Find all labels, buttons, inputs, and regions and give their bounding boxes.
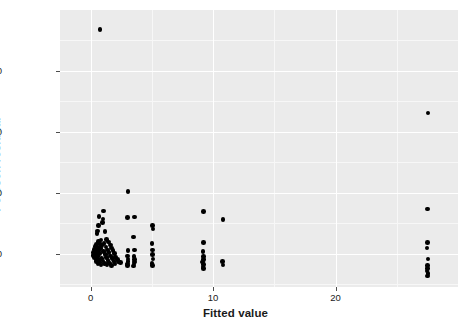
data-point [109,263,114,268]
gridline-major-vertical [336,10,337,287]
gridline-minor-horizontal [60,162,458,163]
y-tick-label: 10 [0,187,2,198]
data-point [132,248,137,253]
y-tick-mark [56,132,60,133]
x-tick-mark [91,287,92,291]
data-point [150,241,155,246]
data-point [96,223,101,228]
data-point [125,215,130,220]
y-tick-label: 0 [0,248,2,259]
scatter-plot: Pearson residual 010203001020 Fitted val… [0,0,471,329]
data-point [221,217,226,222]
data-point [221,263,226,268]
y-tick-mark [56,254,60,255]
data-point [131,235,136,240]
data-point [201,266,206,271]
gridline-major-horizontal [60,132,458,133]
data-point [126,189,131,194]
x-tick-label: 10 [208,292,219,303]
gridline-major-horizontal [60,193,458,194]
data-point [426,111,431,116]
data-point [118,260,123,265]
data-point [425,207,430,212]
data-point [201,209,206,214]
y-tick-mark [56,193,60,194]
gridline-minor-vertical [274,10,275,287]
gridline-major-horizontal [60,254,458,255]
y-tick-mark [56,71,60,72]
x-tick-mark [213,287,214,291]
y-tick-label: 20 [0,126,2,137]
data-point [95,231,100,236]
data-point [425,274,430,279]
x-tick-mark [336,287,337,291]
gridline-minor-horizontal [60,101,458,102]
data-point [98,27,103,32]
data-point [131,264,136,269]
gridline-minor-vertical [397,10,398,287]
x-tick-label: 0 [88,292,93,303]
data-point [100,220,105,225]
data-point [425,246,430,251]
plot-panel [60,10,458,287]
data-point [150,263,155,268]
x-axis-title: Fitted value [0,307,471,319]
data-point [201,240,206,245]
gridline-major-vertical [91,10,92,287]
gridline-major-vertical [213,10,214,287]
data-point [101,209,106,214]
gridline-minor-horizontal [60,223,458,224]
data-point [151,227,156,232]
x-tick-label: 20 [330,292,341,303]
gridline-major-horizontal [60,71,458,72]
data-point [132,215,137,220]
data-point [426,257,431,262]
y-axis-title: Pearson residual [0,0,16,329]
data-point [99,263,104,268]
y-tick-label: 30 [0,65,2,76]
data-point [425,240,430,245]
gridline-minor-horizontal [60,284,458,285]
data-point [126,248,131,253]
data-point [125,263,130,268]
data-point [103,229,108,234]
gridline-minor-horizontal [60,40,458,41]
